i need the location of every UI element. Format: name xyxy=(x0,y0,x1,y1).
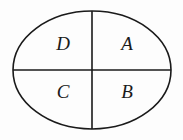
quadrant-label-upper-right: A xyxy=(119,33,133,54)
quadrant-label-lower-right: B xyxy=(121,81,133,102)
quadrant-label-upper-left: D xyxy=(55,33,70,54)
diagram-canvas: D A C B xyxy=(0,0,183,140)
ellipse-quadrant-diagram: D A C B xyxy=(0,0,183,140)
quadrant-label-lower-left: C xyxy=(57,81,70,102)
